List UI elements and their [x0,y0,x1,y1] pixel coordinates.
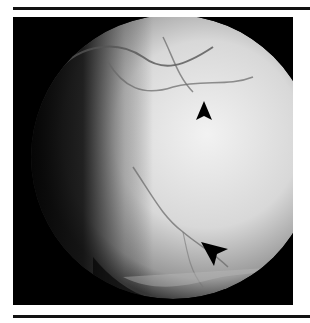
top-rule [13,7,310,10]
fundus-image [13,17,293,305]
bottom-rule [13,315,310,318]
fundus-photograph [13,17,293,305]
